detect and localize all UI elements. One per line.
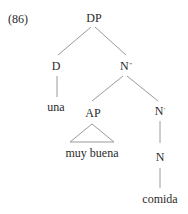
node-ap: AP (85, 107, 100, 119)
word-comida: comida (142, 193, 177, 205)
example-number: (86) (8, 13, 28, 25)
node-dp: DP (86, 12, 101, 24)
node-d: D (52, 60, 61, 72)
node-n-bar: N' (155, 105, 165, 117)
branch-dp-d (58, 27, 91, 55)
phrase-muy-buena: muy buena (66, 147, 119, 159)
branch-dp-n2 (95, 27, 126, 55)
branch-n2-n1 (127, 76, 158, 101)
bar-mark: ' (164, 106, 165, 114)
double-bar-mark: " (129, 61, 132, 69)
node-n-double-bar: N" (120, 60, 132, 72)
node-n-double-bar-label: N (120, 59, 129, 73)
word-una: una (47, 101, 64, 113)
branch-n2-ap (92, 76, 123, 101)
node-n: N (156, 151, 165, 163)
node-n-bar-label: N (155, 104, 164, 118)
ap-triangle (70, 124, 114, 142)
